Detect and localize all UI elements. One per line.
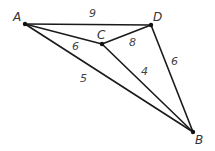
vertex-C xyxy=(100,42,104,46)
edge-A-D xyxy=(25,24,151,25)
weight-C-D: 8 xyxy=(129,36,136,49)
vertex-label-A: A xyxy=(12,10,21,24)
edge-C-B xyxy=(102,44,193,132)
vertex-label-D: D xyxy=(153,10,162,24)
weight-C-B: 4 xyxy=(141,65,148,78)
edge-C-D xyxy=(102,25,151,44)
weight-D-B: 6 xyxy=(171,55,178,68)
vertex-label-B: B xyxy=(195,133,203,147)
weighted-graph-diagram: 9 6 8 4 6 5 A D C B xyxy=(0,0,215,151)
edge-A-B xyxy=(25,24,193,132)
weight-A-D: 9 xyxy=(89,7,96,20)
edge-A-C xyxy=(25,24,102,44)
edges xyxy=(25,24,193,132)
vertex-A xyxy=(23,22,27,26)
weight-A-C: 6 xyxy=(72,40,79,53)
vertex-label-C: C xyxy=(97,28,106,42)
weight-A-B: 5 xyxy=(80,72,87,85)
vertex-labels: A D C B xyxy=(12,10,203,147)
edge-D-B xyxy=(151,25,193,132)
